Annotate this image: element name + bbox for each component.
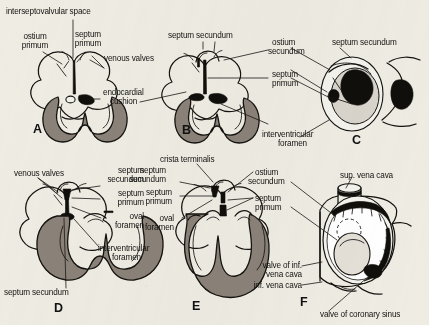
label-interventricular-foramen-d-line1: interventricular xyxy=(98,244,149,253)
label-septum-primum-e-right-line1: septum xyxy=(255,194,281,203)
anatomical-figure: .ink{fill:none;stroke:#14130f;stroke-wid… xyxy=(0,0,429,325)
label-venous-valves-d: venous valves xyxy=(14,169,64,178)
label-septum-primum-a-line2: primum xyxy=(62,39,114,48)
label-crista-terminalis-e: crista terminalis xyxy=(160,155,214,164)
label-interventricular-foramen-b-line1: interventricular xyxy=(262,130,313,139)
label-septum-primum-b-line1: septum xyxy=(272,70,298,79)
label-septum-secundum-d-bottom: septum secundum xyxy=(4,288,69,297)
label-septum-primum-e-left-line1: septum xyxy=(124,188,172,197)
label-valve-inf-vena-cava-line1: valve of inf. xyxy=(248,261,302,270)
label-ostium-primum-a-line1: ostium xyxy=(10,32,60,41)
label-septum-primum-e-right-line2: primum xyxy=(255,203,281,212)
label-oval-foramen-e-line2: foramen xyxy=(120,223,174,232)
panel-letter-e: E xyxy=(192,299,200,313)
label-endocardial-cushion-line1: endocardial xyxy=(103,88,144,97)
label-inf-vena-cava-f: inf. vena cava xyxy=(240,281,302,290)
label-septum-secundum-b: septum secundum xyxy=(168,31,233,40)
panel-letter-d: D xyxy=(54,301,63,315)
label-valve-inf-vena-cava-line2: vena cava xyxy=(248,270,302,279)
label-septum-secundum-e-line1: septum xyxy=(118,166,166,175)
label-oval-foramen-e-line1: oval xyxy=(130,214,174,223)
panel-letter-c: C xyxy=(352,133,361,147)
endocardial-cushion-left xyxy=(66,96,75,103)
label-endocardial-cushion-line2: cushion xyxy=(110,97,137,106)
label-sup-vena-cava-f: sup. vena cava xyxy=(340,171,393,180)
label-septum-secundum-c: septum secundum xyxy=(332,38,397,47)
label-ostium-primum-a-line2: primum xyxy=(10,41,60,50)
panel-letter-a: A xyxy=(33,122,42,136)
label-ostium-secundum-b-line2: secundum xyxy=(268,47,305,56)
panel-letter-b: B xyxy=(182,123,191,137)
label-ostium-secundum-b-line1: ostium xyxy=(272,38,295,47)
label-ostium-secundum-e-line1: ostium xyxy=(255,168,278,177)
label-interventricular-foramen-d-line2: foramen xyxy=(112,253,141,262)
label-valve-coronary-sinus-f: valve of coronary sinus xyxy=(320,310,400,319)
label-septum-primum-b-line2: primum xyxy=(272,79,298,88)
label-septum-primum-e-left-line2: primum xyxy=(120,197,172,206)
label-septum-secundum-e-line2: secundum xyxy=(112,175,166,184)
label-ostium-secundum-e-line2: secundum xyxy=(248,177,285,186)
label-interventricular-foramen-b-line2: foramen xyxy=(278,139,307,148)
label-venous-valves-a: venous valves xyxy=(104,54,154,63)
label-septum-primum-a-line1: septum xyxy=(62,30,114,39)
panel-letter-f: F xyxy=(300,295,308,309)
label-interseptovalvular-space: interseptovalvular space xyxy=(6,7,91,16)
